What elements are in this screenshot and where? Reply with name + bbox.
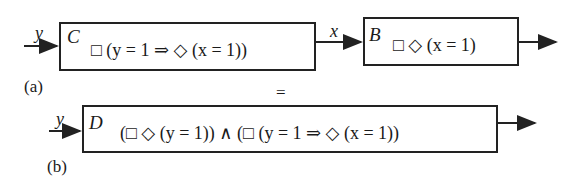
component-c-box: C □ (y = 1 ⇒ ◇ (x = 1)) (59, 22, 316, 71)
equivalence-sign: = (276, 84, 286, 101)
component-b-formula: □ ◇ (x = 1) (393, 36, 476, 54)
component-b-name: B (369, 25, 381, 44)
caption-b: (b) (47, 158, 67, 175)
component-d-formula: (□ ◇ (y = 1)) ∧ (□ (y = 1 ⇒ ◇ (x = 1)) (120, 124, 399, 142)
component-d-name: D (89, 113, 103, 132)
caption-a: (a) (24, 78, 43, 95)
component-c-name: C (67, 27, 80, 46)
component-b-box: B □ ◇ (x = 1) (363, 17, 519, 66)
signal-y-label-a: y (35, 24, 43, 42)
signal-x-label: x (330, 22, 338, 40)
component-c-formula: □ (y = 1 ⇒ ◇ (x = 1)) (91, 41, 247, 59)
component-d-box: D (□ ◇ (y = 1)) ∧ (□ (y = 1 ⇒ ◇ (x = 1)) (82, 105, 498, 153)
signal-y-label-b: y (56, 110, 64, 128)
